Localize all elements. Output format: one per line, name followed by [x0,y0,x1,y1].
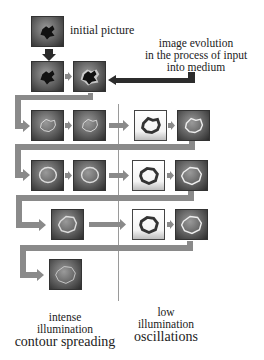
row3-tile-1 [31,160,64,191]
row4-tile-4 [175,209,208,240]
left-caption-line1: intense [2,311,128,323]
right-arrow-icon [168,121,175,130]
long-arrow-icon [109,120,129,131]
row3-tile-3 [132,160,165,191]
connector-bar-1 [15,95,93,100]
column-divider [118,104,119,301]
left-caption: intense illumination contour spreading [2,311,128,350]
right-caption: low illumination oscillations [126,306,206,345]
row2-tile-3 [134,110,167,141]
connector-arrow-1-icon [15,120,30,132]
evolution-label-line1: image evolution [140,37,252,49]
row3-tile-4 [175,160,208,191]
right-caption-line3: oscillations [126,330,206,345]
connector-arrow-3-icon [16,219,46,231]
initial-picture-label: initial picture [70,24,134,37]
left-caption-line3: contour spreading [2,335,128,350]
connector-stub-4 [187,241,193,247]
right-arrow-icon [167,171,174,180]
right-arrow-icon [167,220,174,229]
connector-bar-3 [16,195,194,201]
row2-tile-4 [177,110,210,141]
row3-tile-2 [73,160,106,191]
evolution-label-line2: in the process of input [140,49,252,61]
connector-bar-2 [15,144,195,150]
down-arrow-icon [42,49,56,61]
row5-tile-1 [49,259,82,290]
right-caption-line1: low [126,306,206,318]
connector-stub-2 [189,141,195,147]
row4-tile-3 [132,209,165,240]
right-arrow-icon [65,72,72,81]
input-arrow-icon [108,72,195,86]
row1-tile-1 [31,61,64,92]
row1-tile-2 [73,61,106,92]
connector-stub-1 [88,93,93,98]
row2-tile-1 [31,110,64,141]
connector-bar-4 [20,245,193,251]
initial-picture-tile [31,16,64,47]
long-arrow-icon [109,170,129,181]
evolution-label: image evolution in the process of input … [140,37,252,73]
right-arrow-icon [65,171,72,180]
connector-stub-3 [188,191,194,197]
row4-tile-1 [51,209,84,240]
long-arrow-icon [89,219,126,230]
row2-tile-2 [73,110,106,141]
connector-arrow-4-icon [20,269,44,281]
connector-arrow-2-icon [15,169,30,181]
right-arrow-icon [65,121,72,130]
